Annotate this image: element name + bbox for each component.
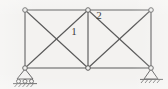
joint-top-right bbox=[149, 8, 154, 13]
roller-wheel-3 bbox=[30, 79, 34, 83]
joint-top-middle bbox=[86, 8, 91, 13]
joint-top-left bbox=[23, 8, 28, 13]
truss-diagram-canvas: 1 2 bbox=[0, 0, 168, 89]
roller-wheel-1 bbox=[17, 79, 21, 83]
joint-bottom-middle bbox=[86, 66, 91, 71]
member-label-1: 1 bbox=[71, 25, 77, 37]
member-label-2: 2 bbox=[96, 9, 102, 21]
joint-bottom-right bbox=[149, 66, 154, 71]
roller-wheel-2 bbox=[23, 79, 27, 83]
joint-bottom-left bbox=[23, 66, 28, 71]
truss-diagram-figure: 1 2 bbox=[0, 0, 168, 89]
